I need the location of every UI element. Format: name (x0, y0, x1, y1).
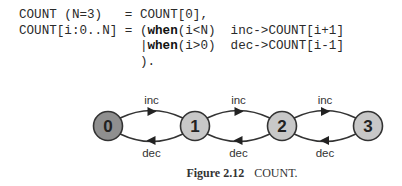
transition-label: dec (316, 147, 335, 159)
arrowhead-icon (235, 107, 244, 116)
state-2: 2 (268, 112, 297, 141)
arrowhead-icon (147, 136, 156, 145)
transition-dec-3-to-2: dec (294, 134, 356, 159)
transition-label: inc (231, 94, 246, 106)
state-label: 2 (277, 117, 286, 136)
arrowhead-icon (148, 107, 157, 116)
transition-inc-0-to-1: inc (120, 94, 183, 118)
figure-caption: Figure 2.12COUNT. (0, 166, 402, 181)
state-0: 0 (94, 112, 123, 141)
transition-label: dec (229, 147, 248, 159)
figure-number: Figure 2.12 (186, 166, 244, 180)
state-diagram: incincincdecdecdec0123 (0, 0, 402, 186)
figure-title: COUNT. (254, 166, 297, 180)
state-3: 3 (354, 112, 383, 141)
transition-dec-1-to-0: dec (120, 134, 183, 159)
transition-inc-1-to-2: inc (207, 94, 270, 118)
state-1: 1 (181, 112, 210, 141)
arrowhead-icon (321, 107, 330, 116)
state-label: 3 (363, 117, 372, 136)
state-label: 1 (190, 117, 199, 136)
state-label: 0 (103, 117, 112, 136)
transition-dec-2-to-1: dec (207, 134, 270, 159)
transition-inc-2-to-3: inc (294, 94, 356, 118)
arrowhead-icon (320, 136, 329, 145)
transition-label: inc (144, 94, 159, 106)
transition-label: inc (318, 94, 333, 106)
transition-label: dec (142, 147, 161, 159)
arrowhead-icon (234, 136, 243, 145)
